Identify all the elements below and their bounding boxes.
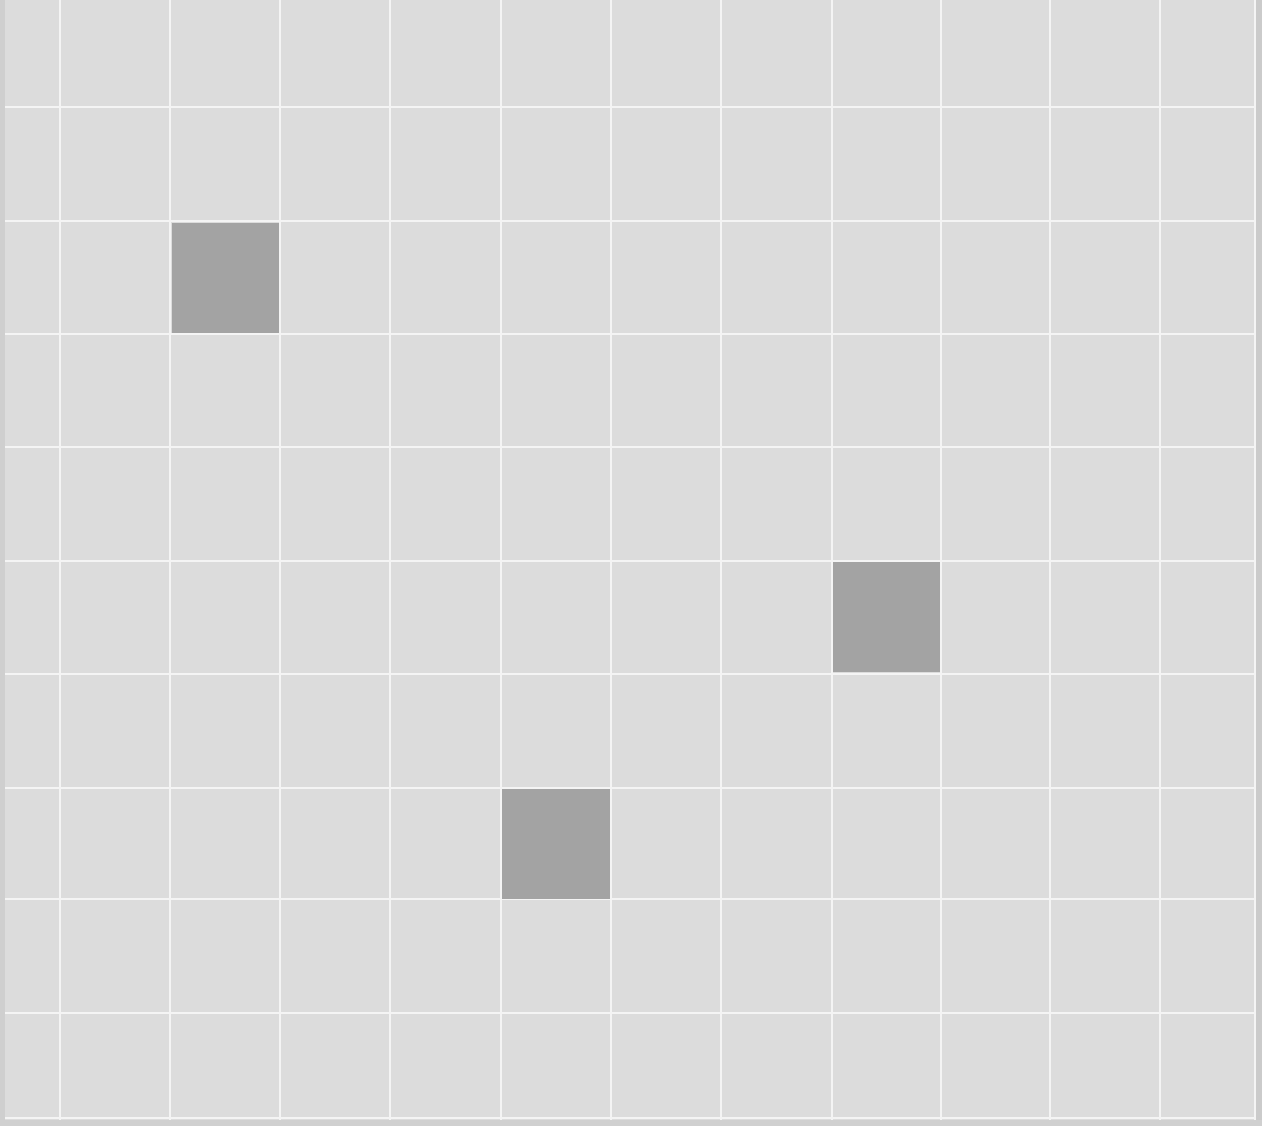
filled-cell-r5-c8[interactable] bbox=[833, 562, 940, 672]
grid-hline-4 bbox=[5, 560, 1256, 562]
game-board[interactable] bbox=[0, 0, 1262, 1126]
filled-cell-r2-c2[interactable] bbox=[172, 223, 279, 333]
grid-hline-0 bbox=[5, 106, 1256, 108]
filled-cell-r7-c5[interactable] bbox=[502, 789, 610, 899]
grid-hline-6 bbox=[5, 787, 1256, 789]
grid-hline-5 bbox=[5, 673, 1256, 675]
grid-hline-1 bbox=[5, 220, 1256, 222]
grid-hline-9 bbox=[5, 1117, 1256, 1119]
grid-hline-7 bbox=[5, 898, 1256, 900]
grid-hline-8 bbox=[5, 1012, 1256, 1014]
board-right-edge bbox=[1256, 0, 1262, 1126]
grid-hline-2 bbox=[5, 333, 1256, 335]
board-left-edge bbox=[0, 0, 5, 1126]
board-bottom-edge bbox=[0, 1120, 1262, 1126]
grid-hline-3 bbox=[5, 446, 1256, 448]
